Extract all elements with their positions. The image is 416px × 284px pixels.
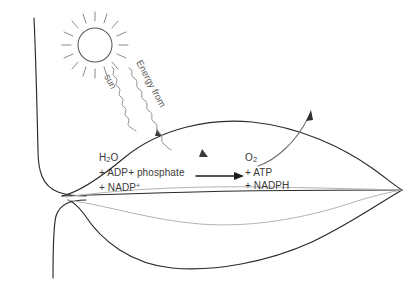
light-wave-right-arrowhead <box>199 149 208 157</box>
light-wave-right <box>129 68 208 157</box>
product-line-nadph: + NADPH <box>245 179 289 192</box>
leaf-outline-group <box>34 18 402 278</box>
products-label: O2 + ATP + NADPH <box>245 151 289 192</box>
reactant-line-nadp: + NADP+ <box>99 179 185 194</box>
petiole-lower-left-edge <box>53 200 86 278</box>
sun-disc <box>78 28 112 62</box>
product-line-oxygen: O2 <box>245 151 289 166</box>
reactants-label: H2O + ADP+ phosphate + NADP+ <box>99 151 185 194</box>
sun-icon <box>62 12 128 78</box>
diagram-canvas <box>0 0 416 284</box>
reaction-arrow <box>196 172 244 180</box>
reactant-line-water: H2O <box>99 151 185 166</box>
leaf-lower-lobe-bottom-edge <box>68 190 402 269</box>
product-line-atp: + ATP <box>245 166 289 179</box>
leaf-lower-lobe-top-edge <box>68 190 402 225</box>
sun-rays <box>62 12 128 78</box>
reactant-line-adp: + ADP+ phosphate <box>99 166 185 179</box>
photosynthesis-diagram: H2O + ADP+ phosphate + NADP+ O2 + ATP + … <box>0 0 416 284</box>
